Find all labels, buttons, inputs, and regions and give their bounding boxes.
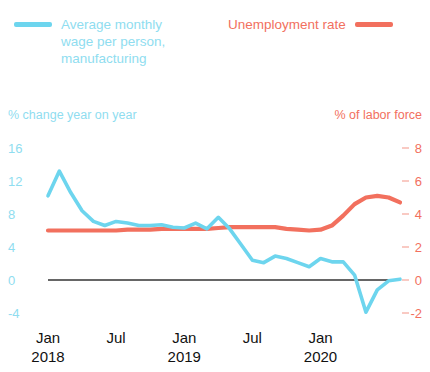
chart-svg xyxy=(0,130,430,325)
chart-legend: Average monthly wage per person, manufac… xyxy=(0,12,430,92)
x-tick-year: 2020 xyxy=(304,347,337,366)
x-tick-year: 2018 xyxy=(31,347,64,366)
left-tick-label: 12 xyxy=(8,174,22,189)
x-axis-labels: Jan2018JulJan2019JulJan2020 xyxy=(0,328,430,372)
legend-swatch-wage-icon xyxy=(14,22,52,27)
right-tick-label: 4 xyxy=(415,207,422,222)
right-tick-label: 8 xyxy=(415,141,422,156)
x-tick-month: Jul xyxy=(243,329,262,346)
legend-label-wage: Average monthly wage per person, manufac… xyxy=(61,16,193,67)
x-tick-label: Jul xyxy=(107,328,126,347)
x-tick-label: Jan2018 xyxy=(31,328,64,366)
x-tick-month: Jul xyxy=(107,329,126,346)
legend-swatch-unemployment-icon xyxy=(355,22,393,27)
left-tick-label: 0 xyxy=(8,273,15,288)
x-tick-month: Jan xyxy=(172,329,196,346)
right-tick-marks xyxy=(402,148,409,313)
legend-item-wage: Average monthly wage per person, manufac… xyxy=(14,16,193,67)
right-axis-caption: % of labor force xyxy=(334,108,422,122)
average-wage-line xyxy=(48,171,400,312)
x-tick-label: Jul xyxy=(243,328,262,347)
x-tick-year: 2019 xyxy=(168,347,201,366)
x-tick-month: Jan xyxy=(36,329,60,346)
left-tick-label: -4 xyxy=(8,306,20,321)
left-tick-label: 16 xyxy=(8,141,22,156)
chart-figure: Average monthly wage per person, manufac… xyxy=(0,0,430,372)
right-tick-label: 6 xyxy=(415,174,422,189)
legend-item-unemployment: Unemployment rate xyxy=(228,16,393,33)
plot-area: 1612840-4 86420-2 xyxy=(0,130,430,325)
legend-label-unemployment: Unemployment rate xyxy=(228,16,346,33)
x-tick-label: Jan2020 xyxy=(304,328,337,366)
left-axis-caption: % change year on year xyxy=(8,108,137,122)
left-tick-label: 8 xyxy=(8,207,15,222)
right-tick-label: 0 xyxy=(415,273,422,288)
right-tick-label: -2 xyxy=(410,306,422,321)
right-tick-label: 2 xyxy=(415,240,422,255)
left-tick-label: 4 xyxy=(8,240,15,255)
x-tick-label: Jan2019 xyxy=(168,328,201,366)
x-tick-month: Jan xyxy=(308,329,332,346)
